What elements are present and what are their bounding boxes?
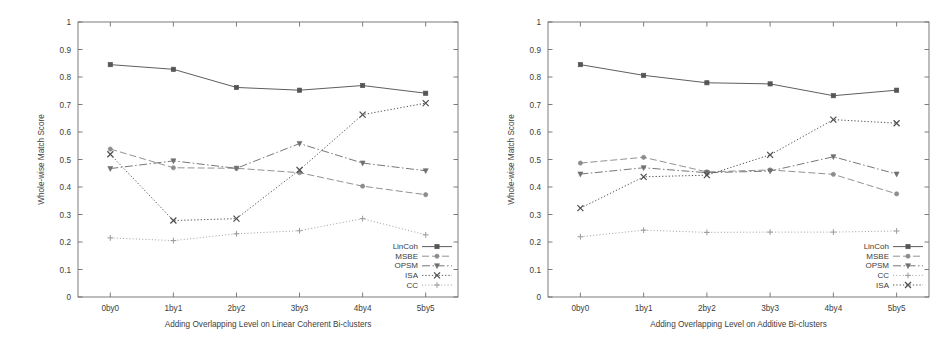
data-point-msbe-4by4 xyxy=(831,172,835,176)
x-tick-label: 4by4 xyxy=(824,304,842,313)
data-point-opsm-0by0 xyxy=(108,166,113,171)
y-tick-label: 0.8 xyxy=(60,73,72,82)
y-tick-label: 0.1 xyxy=(60,266,72,275)
y-tick-label: 0.7 xyxy=(530,101,542,110)
y-tick-label: 0.6 xyxy=(530,128,542,137)
line-chart-linear-coherent: 00.10.20.30.40.50.60.70.80.910by01by12by… xyxy=(0,0,470,345)
legend-label-msbe: MSBE xyxy=(866,252,889,261)
data-point-cc-2by2 xyxy=(704,229,710,235)
legend: LinCohMSBEOPSMISACC xyxy=(393,242,452,289)
legend-marker-lincoh xyxy=(906,245,910,249)
x-tick-label: 1by1 xyxy=(164,304,182,313)
x-tick-label: 3by3 xyxy=(761,304,779,313)
y-tick-label: 0.9 xyxy=(60,46,72,55)
series-line-msbe xyxy=(580,157,896,194)
x-tick-label: 3by3 xyxy=(291,304,309,313)
data-point-cc-4by4 xyxy=(830,229,836,235)
legend-marker-cc xyxy=(434,282,440,288)
data-point-lincoh-0by0 xyxy=(578,63,582,67)
y-tick-label: 0.1 xyxy=(530,266,542,275)
legend-marker-msbe xyxy=(906,254,910,258)
data-point-lincoh-0by0 xyxy=(108,63,112,67)
series-cc xyxy=(577,227,899,239)
y-tick-label: 0.7 xyxy=(60,101,72,110)
data-point-lincoh-3by3 xyxy=(297,88,301,92)
y-tick-label: 0.2 xyxy=(60,238,72,247)
x-tick-label: 1by1 xyxy=(635,304,653,313)
data-point-lincoh-2by2 xyxy=(705,81,709,85)
series-opsm xyxy=(578,155,899,177)
data-point-opsm-0by0 xyxy=(578,172,583,177)
y-tick-label: 0 xyxy=(66,293,71,302)
data-point-lincoh-1by1 xyxy=(642,73,646,77)
y-tick-label: 0.5 xyxy=(530,156,542,165)
y-tick-label: 1 xyxy=(66,18,71,27)
legend-marker-lincoh xyxy=(435,245,439,249)
series-line-opsm xyxy=(580,157,896,174)
series-cc xyxy=(107,216,428,244)
data-point-cc-4by4 xyxy=(360,216,366,222)
y-tick-label: 0.4 xyxy=(530,183,542,192)
figure-two-panel-line-charts: 00.10.20.30.40.50.60.70.80.910by01by12by… xyxy=(0,0,941,345)
data-point-cc-1by1 xyxy=(170,238,176,244)
legend-label-lincoh: LinCoh xyxy=(864,242,889,251)
legend-label-lincoh: LinCoh xyxy=(393,242,418,251)
y-tick-label: 0.3 xyxy=(60,211,72,220)
legend-label-opsm: OPSM xyxy=(865,261,889,270)
data-point-opsm-5by5 xyxy=(423,169,428,174)
series-lincoh xyxy=(578,63,898,98)
series-line-cc xyxy=(110,219,425,241)
y-tick-label: 0.6 xyxy=(60,128,72,137)
legend-label-isa: ISA xyxy=(876,281,890,290)
y-tick-label: 0.9 xyxy=(530,46,542,55)
data-point-isa-0by0 xyxy=(107,151,113,157)
legend-label-cc: CC xyxy=(406,281,418,290)
data-point-msbe-5by5 xyxy=(424,193,428,197)
series-line-opsm xyxy=(110,144,425,171)
chart-panel-linear-coherent: 00.10.20.30.40.50.60.70.80.910by01by12by… xyxy=(0,0,470,345)
series-line-cc xyxy=(580,230,896,237)
data-point-msbe-4by4 xyxy=(361,184,365,188)
data-point-opsm-5by5 xyxy=(894,172,899,177)
data-point-msbe-0by0 xyxy=(108,147,112,151)
data-point-cc-0by0 xyxy=(107,235,113,241)
y-axis-title: Whole-wise Match Score xyxy=(507,114,516,205)
x-axis-title: Adding Overlapping Level on Additive Bi-… xyxy=(650,320,827,329)
legend-label-cc: CC xyxy=(877,271,889,280)
data-point-cc-5by5 xyxy=(894,228,900,234)
y-tick-label: 0.5 xyxy=(60,156,72,165)
data-point-lincoh-2by2 xyxy=(234,85,238,89)
series-line-lincoh xyxy=(110,65,425,94)
series-line-lincoh xyxy=(580,65,896,96)
legend-label-opsm: OPSM xyxy=(394,261,418,270)
data-point-msbe-5by5 xyxy=(895,192,899,196)
y-tick-label: 1 xyxy=(536,18,541,27)
data-point-msbe-0by0 xyxy=(578,161,582,165)
data-point-cc-0by0 xyxy=(577,234,583,240)
x-tick-label: 5by5 xyxy=(888,304,906,313)
data-point-cc-1by1 xyxy=(641,227,647,233)
data-point-cc-3by3 xyxy=(767,229,773,235)
data-point-msbe-1by1 xyxy=(171,166,175,170)
data-point-isa-0by0 xyxy=(577,205,583,211)
data-point-lincoh-4by4 xyxy=(831,94,835,98)
series-isa xyxy=(107,100,428,223)
x-tick-label: 0by0 xyxy=(572,304,590,313)
legend-marker-cc xyxy=(905,273,911,279)
x-axis-title: Adding Overlapping Level on Linear Coher… xyxy=(165,320,372,329)
line-chart-additive: 00.10.20.30.40.50.60.70.80.910by01by12by… xyxy=(470,0,941,345)
data-point-cc-3by3 xyxy=(297,228,303,234)
y-tick-label: 0 xyxy=(536,293,541,302)
series-opsm xyxy=(108,141,428,173)
y-tick-label: 0.4 xyxy=(60,183,72,192)
data-point-lincoh-5by5 xyxy=(424,91,428,95)
y-tick-label: 0.8 xyxy=(530,73,542,82)
x-tick-label: 4by4 xyxy=(354,304,372,313)
legend-marker-msbe xyxy=(435,254,439,258)
y-tick-label: 0.3 xyxy=(530,211,542,220)
x-tick-label: 0by0 xyxy=(101,304,119,313)
y-tick-label: 0.2 xyxy=(530,238,542,247)
series-lincoh xyxy=(108,63,428,96)
data-point-lincoh-1by1 xyxy=(171,67,175,71)
data-point-lincoh-4by4 xyxy=(361,83,365,87)
